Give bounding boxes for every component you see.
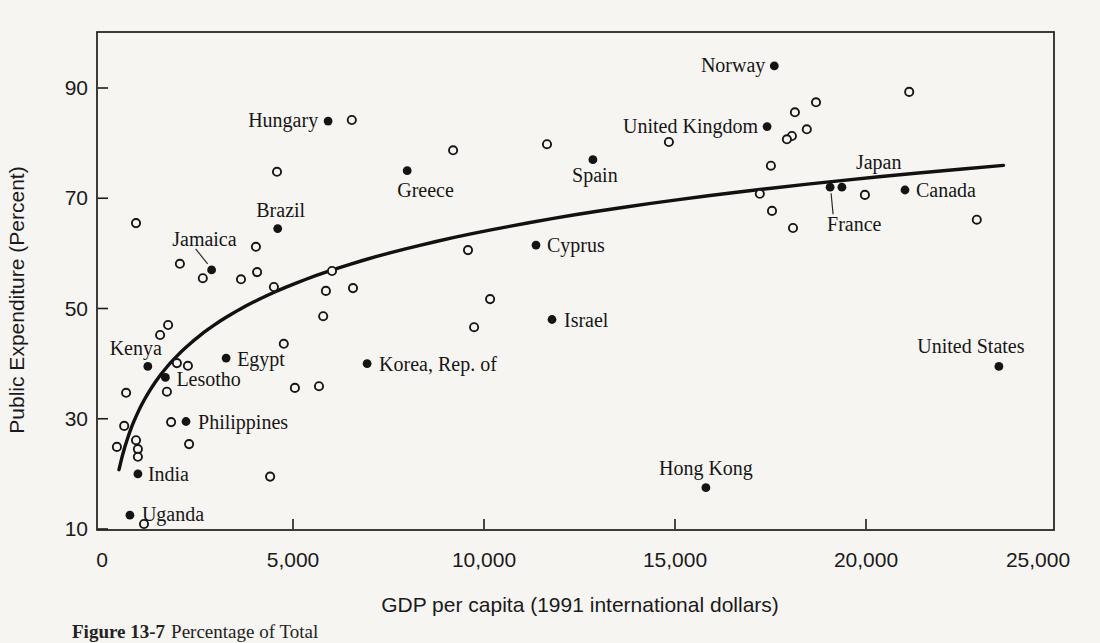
data-point-brazil (273, 224, 282, 233)
country-label-japan: Japan (856, 151, 902, 174)
country-label-cyprus: Cyprus (547, 234, 605, 257)
data-point-egypt (222, 354, 231, 363)
data-point-open (270, 283, 278, 291)
data-point-open (132, 219, 140, 227)
x-tick-label: 5,000 (267, 548, 320, 571)
label-leader-line (831, 193, 833, 214)
country-label-israel: Israel (564, 309, 609, 331)
data-point-open (122, 389, 130, 397)
x-tick-label: 25,000 (1006, 548, 1070, 571)
data-point-united-kingdom (763, 122, 772, 131)
data-point-open (973, 216, 981, 224)
data-point-open (120, 422, 128, 430)
data-point-israel (548, 315, 557, 324)
data-point-open (164, 321, 172, 329)
country-label-norway: Norway (701, 54, 765, 77)
y-tick-label: 30 (65, 407, 88, 430)
data-point-open (783, 135, 791, 143)
y-axis-title: Public Expenditure (Percent) (5, 166, 28, 433)
data-point-open (176, 260, 184, 268)
country-label-india: India (148, 463, 189, 485)
data-point-japan (838, 183, 847, 192)
country-label-united-states: United States (917, 335, 1024, 357)
country-label-hong-kong: Hong Kong (659, 457, 753, 480)
data-point-open (185, 440, 193, 448)
data-point-open (756, 190, 764, 198)
data-point-hong-kong (702, 483, 711, 492)
country-label-hungary: Hungary (248, 109, 318, 132)
data-point-norway (770, 62, 779, 71)
country-label-brazil: Brazil (256, 199, 305, 221)
data-point-open (349, 284, 357, 292)
data-point-open (803, 125, 811, 133)
figure-caption-number: Figure 13-7 (72, 621, 165, 642)
data-point-open (167, 418, 175, 426)
data-point-open (486, 295, 494, 303)
data-point-france (826, 183, 835, 192)
data-point-open (199, 274, 207, 282)
data-point-open (328, 267, 336, 275)
country-label-canada: Canada (916, 179, 976, 201)
data-point-philippines (182, 417, 191, 426)
country-label-spain: Spain (572, 164, 618, 187)
data-point-lesotho (161, 373, 170, 382)
country-label-greece: Greece (397, 179, 454, 201)
data-point-canada (901, 186, 910, 195)
data-point-open (134, 453, 142, 461)
data-point-open (273, 168, 281, 176)
data-point-open (319, 312, 327, 320)
data-point-united-states (995, 362, 1004, 371)
data-point-open (237, 275, 245, 283)
data-point-kenya (143, 362, 152, 371)
y-tick-label: 10 (65, 517, 88, 540)
data-point-open (348, 116, 356, 124)
data-point-open (665, 138, 673, 146)
x-axis-title: GDP per capita (1991 international dolla… (381, 593, 779, 616)
x-tick-label: 15,000 (643, 548, 707, 571)
country-label-jamaica: Jamaica (172, 228, 237, 250)
data-point-open (767, 162, 775, 170)
data-point-open (253, 268, 261, 276)
data-point-open (315, 382, 323, 390)
data-point-open (861, 191, 869, 199)
figure-caption-text: Percentage of Total (171, 621, 318, 642)
data-point-open (173, 359, 181, 367)
y-tick-label: 70 (65, 186, 88, 209)
data-point-open (543, 140, 551, 148)
figure-caption: Figure 13-7Percentage of Total (72, 621, 832, 643)
country-label-lesotho: Lesotho (176, 368, 240, 390)
data-point-open (113, 443, 121, 451)
data-point-open (266, 473, 274, 481)
data-point-greece (403, 166, 412, 175)
x-tick-label: 20,000 (834, 548, 898, 571)
data-point-open (812, 98, 820, 106)
data-point-uganda (125, 511, 134, 520)
data-point-open (449, 146, 457, 154)
data-point-india (134, 470, 143, 479)
country-label-uganda: Uganda (142, 503, 204, 526)
data-point-open (464, 246, 472, 254)
data-point-korea-rep-of (363, 359, 372, 368)
data-point-open (132, 436, 140, 444)
label-leader-line (196, 249, 208, 264)
data-point-open (291, 384, 299, 392)
country-label-kenya: Kenya (110, 337, 162, 360)
data-point-jamaica (207, 266, 216, 275)
country-label-egypt: Egypt (237, 348, 285, 371)
y-tick-label: 90 (65, 76, 88, 99)
x-tick-label: 0 (96, 548, 108, 571)
data-point-open (322, 287, 330, 295)
data-point-open (789, 224, 797, 232)
country-label-france: France (827, 213, 882, 235)
data-point-open (768, 207, 776, 215)
data-point-open (163, 388, 171, 396)
country-label-korea-rep-of: Korea, Rep. of (379, 353, 497, 376)
data-point-open (252, 243, 260, 251)
data-point-hungary (324, 117, 333, 126)
country-label-united-kingdom: United Kingdom (623, 115, 758, 138)
data-point-open (791, 108, 799, 116)
data-point-open (905, 88, 913, 96)
country-label-philippines: Philippines (198, 411, 288, 434)
